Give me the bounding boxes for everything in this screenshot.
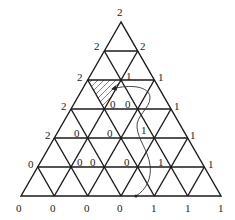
svg-text:0: 0	[124, 156, 130, 168]
svg-text:1: 1	[141, 124, 147, 136]
svg-text:0: 0	[16, 202, 22, 214]
hatched-cell	[80, 77, 131, 110]
svg-text:0: 0	[84, 202, 90, 214]
triangle-diagram: 2 2 2 2 1 1 2 0 0 1 2 0 0 1 1 0 0 0 0 1 …	[0, 0, 235, 220]
svg-text:0: 0	[125, 98, 131, 110]
svg-text:0: 0	[74, 127, 80, 139]
svg-text:2: 2	[45, 129, 51, 141]
svg-text:2: 2	[94, 40, 100, 52]
svg-text:0: 0	[77, 156, 83, 168]
svg-text:1: 1	[158, 71, 164, 83]
svg-text:1: 1	[218, 202, 224, 214]
svg-text:1: 1	[190, 129, 196, 141]
svg-text:1: 1	[185, 202, 191, 214]
svg-text:1: 1	[174, 100, 180, 112]
triangle-grid	[21, 22, 221, 196]
svg-text:2: 2	[77, 71, 83, 83]
svg-text:2: 2	[140, 40, 146, 52]
path-curve	[112, 86, 150, 197]
svg-text:0: 0	[50, 202, 56, 214]
svg-text:1: 1	[151, 202, 157, 214]
svg-text:0: 0	[90, 156, 96, 168]
svg-text:2: 2	[61, 100, 67, 112]
svg-text:0: 0	[107, 127, 113, 139]
path-start-dot	[134, 194, 137, 197]
svg-text:0: 0	[28, 158, 34, 170]
svg-text:0: 0	[110, 98, 116, 110]
svg-text:2: 2	[117, 6, 123, 18]
svg-text:1: 1	[208, 158, 214, 170]
svg-text:1: 1	[158, 156, 164, 168]
svg-text:1: 1	[126, 70, 132, 82]
svg-text:0: 0	[117, 202, 123, 214]
